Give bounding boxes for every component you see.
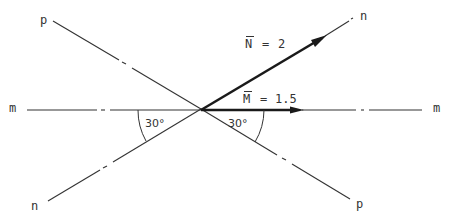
vector-diagram: p p n n m m N = 2 M = 1.5 30° 30°: [0, 0, 453, 220]
vector-n-symbol: N: [245, 37, 252, 51]
vector-n-equals: =: [262, 37, 269, 51]
vector-m-label: M = 1.5: [243, 92, 297, 107]
vector-n-value: 2: [278, 37, 285, 51]
vector-m-arrow: [201, 107, 304, 114]
label-m-end: m: [433, 101, 440, 115]
angle-label-left: 30°: [145, 117, 165, 130]
angle-label-right: 30°: [228, 117, 248, 130]
label-n-start: n: [31, 199, 38, 213]
vector-m-symbol: M: [243, 92, 250, 106]
label-p-start: p: [40, 13, 47, 27]
label-p-end: p: [356, 197, 363, 211]
label-n-end: n: [360, 9, 367, 23]
vector-n-label: N = 2: [245, 37, 285, 52]
vector-m-value: 1.5: [275, 92, 297, 106]
angle-arc-right: [255, 110, 264, 142]
vector-m-equals: =: [260, 92, 267, 106]
label-m-start: m: [9, 101, 16, 115]
